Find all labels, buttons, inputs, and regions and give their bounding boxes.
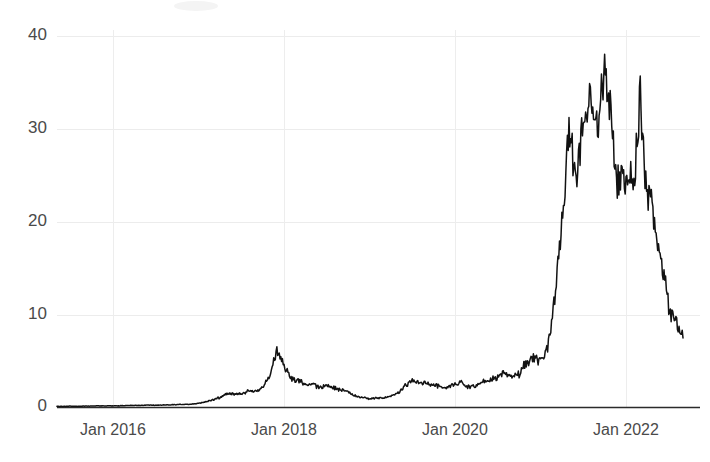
y-tick-label-0: 0 xyxy=(38,396,47,415)
x-tick-label-jan-2018: Jan 2018 xyxy=(251,421,317,438)
y-axis-tick-labels: 40 30 20 10 0 xyxy=(28,25,47,415)
x-axis-tick-labels: Jan 2016 Jan 2018 Jan 2020 Jan 2022 xyxy=(80,421,659,438)
y-tick-label-40: 40 xyxy=(28,25,47,44)
y-tick-label-10: 10 xyxy=(28,304,47,323)
x-tick-label-jan-2020: Jan 2020 xyxy=(422,421,488,438)
page-artifact xyxy=(174,1,218,11)
x-tick-label-jan-2022: Jan 2022 xyxy=(593,421,659,438)
x-tick-label-jan-2016: Jan 2016 xyxy=(80,421,146,438)
line-chart: 40 30 20 10 0 Jan 2016 Jan 2018 Jan 2020… xyxy=(0,0,710,462)
series-line-value xyxy=(57,54,683,406)
y-tick-label-20: 20 xyxy=(28,211,47,230)
vertical-gridlines xyxy=(114,30,627,408)
y-tick-label-30: 30 xyxy=(28,118,47,137)
chart-container: 40 30 20 10 0 Jan 2016 Jan 2018 Jan 2020… xyxy=(0,0,710,462)
